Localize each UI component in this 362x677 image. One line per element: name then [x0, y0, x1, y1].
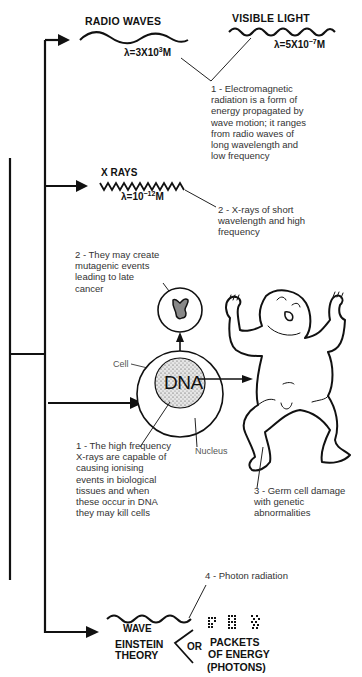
- visible-wavelength-unit: M: [317, 39, 325, 50]
- arrow-xray-icon: [76, 180, 88, 192]
- packets-label-line2: OF ENERGY: [208, 648, 270, 660]
- radio-wave-icon: [80, 32, 188, 43]
- radio-wavelength: λ=3X103M: [124, 46, 171, 58]
- dna-to-mutation-arrowhead-icon: [176, 332, 184, 342]
- photon-packet-1: [208, 617, 216, 628]
- inner-bracket-line: [45, 40, 132, 633]
- xray-wave-icon: [100, 183, 184, 190]
- arrowheads: [58, 34, 143, 638]
- note1-electromagnetic: 1 - Electromagnetic radiation is a form …: [211, 83, 311, 161]
- einstein-wave-icon: [107, 616, 191, 623]
- note4-photon-leader: [189, 585, 206, 618]
- photon-packets-icon: [208, 615, 260, 629]
- xray-title: X RAYS: [101, 167, 137, 178]
- photon-packet-2: [228, 615, 236, 629]
- dna-to-baby-arrowhead-icon: [242, 375, 253, 383]
- packets-label-line1: PACKETS: [210, 636, 259, 648]
- radio-waves-title: RADIO WAVES: [85, 15, 161, 27]
- or-label: OR: [187, 641, 202, 652]
- nucleus-label: Nucleus: [195, 446, 228, 456]
- xray-wavelength-unit: M: [155, 191, 163, 202]
- visible-light-wave-icon: [229, 29, 335, 36]
- cell-label: Cell: [113, 359, 129, 369]
- visible-wavelength-base: λ=5X10: [274, 39, 309, 50]
- arrow-radio-icon: [58, 34, 70, 46]
- visible-wavelength-exponent: −7: [309, 38, 317, 45]
- packets-label-line3: (PHOTONS): [207, 661, 266, 673]
- note2-xray-leader: [185, 190, 216, 207]
- note2-xray: 2 - X-rays of short wavelength and high …: [218, 204, 310, 238]
- radio-wavelength-base: λ=3X10: [124, 47, 159, 58]
- xray-wavelength: λ=10−12M: [121, 190, 164, 202]
- outer-bracket-line: [10, 158, 46, 580]
- note4-photon: 4 - Photon radiation: [205, 570, 315, 581]
- theory-label: THEORY: [115, 649, 158, 661]
- xray-wavelength-exponent: −12: [144, 190, 156, 197]
- visible-wavelength: λ=5X10−7M: [274, 38, 325, 50]
- dna-label: DNA: [164, 372, 203, 394]
- xray-wavelength-base: λ=10: [121, 191, 144, 202]
- radio-wavelength-unit: M: [163, 47, 171, 58]
- visible-light-title: VISIBLE LIGHT: [232, 12, 310, 24]
- note1-ionising: 1 - The high frequency X-rays are capabl…: [76, 440, 172, 518]
- wave-label: WAVE: [123, 623, 152, 634]
- note2-mutagenic: 2 - They may create mutagenic events lea…: [75, 249, 165, 294]
- photon-packet-3: [251, 615, 260, 629]
- arrow-theory-icon: [86, 626, 99, 638]
- note1-leader-lines: [181, 38, 251, 81]
- note3-germ-cell: 3 - Germ cell damage with genetic abnorm…: [254, 485, 346, 519]
